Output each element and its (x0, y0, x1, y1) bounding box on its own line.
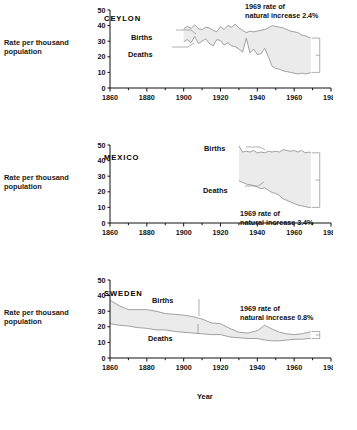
svg-text:1880: 1880 (139, 93, 155, 101)
series-label-deaths-sweden: Deaths (148, 334, 173, 343)
y-axis-label-line2: population (4, 182, 76, 191)
svg-text:1900: 1900 (176, 363, 192, 371)
y-axis-label-line2: population (4, 317, 76, 326)
annotation-mexico: 1969 rate of natural increase 3.4% (240, 209, 314, 227)
svg-text:1940: 1940 (249, 93, 265, 101)
series-label-births-sweden: Births (152, 296, 173, 305)
y-axis-label-line1: Rate per thousand (4, 308, 76, 317)
panel-title-mexico: MEXICO (104, 153, 139, 162)
svg-text:50: 50 (98, 276, 106, 285)
svg-text:20: 20 (98, 322, 106, 331)
svg-text:30: 30 (98, 307, 106, 316)
annotation-line1: 1969 rate of (240, 209, 314, 218)
series-label-births-ceylon: Births (131, 33, 152, 42)
svg-text:1920: 1920 (213, 93, 229, 101)
svg-text:10: 10 (98, 68, 106, 77)
y-axis-label-mexico: Rate per thousand population (4, 173, 76, 192)
svg-text:1860: 1860 (102, 228, 118, 236)
panel-title-sweden: SWEDEN (104, 289, 143, 298)
y-axis-label-ceylon: Rate per thousand population (4, 38, 76, 57)
series-label-deaths-ceylon: Deaths (128, 50, 153, 59)
svg-text:1980: 1980 (323, 93, 333, 101)
panel-sweden: Rate per thousand population 01020304050… (0, 270, 357, 430)
y-axis-label-sweden: Rate per thousand population (4, 308, 76, 327)
annotation-line1: 1969 rate of (245, 2, 319, 11)
annotation-ceylon: 1969 rate of natural increase 2.4% (245, 2, 319, 20)
svg-text:1920: 1920 (213, 228, 229, 236)
y-axis-label-line2: population (4, 47, 76, 56)
series-label-deaths-mexico: Deaths (203, 186, 228, 195)
annotation-line2: natural increase 0.8% (240, 313, 314, 322)
y-axis-label-line1: Rate per thousand (4, 173, 76, 182)
svg-text:20: 20 (98, 187, 106, 196)
svg-text:0: 0 (102, 84, 106, 93)
annotation-line2: natural increase 3.4% (240, 218, 314, 227)
birth-death-rate-figure: Rate per thousand population 01020304050… (0, 0, 357, 430)
svg-text:1860: 1860 (102, 363, 118, 371)
svg-text:1900: 1900 (176, 228, 192, 236)
svg-text:0: 0 (102, 354, 106, 363)
annotation-line2: natural increase 2.4% (245, 11, 319, 20)
x-axis-label: Year (197, 392, 213, 401)
svg-text:1980: 1980 (323, 228, 333, 236)
svg-text:10: 10 (98, 338, 106, 347)
svg-text:1960: 1960 (286, 228, 302, 236)
svg-text:1940: 1940 (249, 228, 265, 236)
svg-text:1960: 1960 (286, 93, 302, 101)
svg-text:1940: 1940 (249, 363, 265, 371)
svg-text:20: 20 (98, 52, 106, 61)
svg-text:10: 10 (98, 203, 106, 212)
series-label-births-mexico: Births (204, 144, 225, 153)
svg-text:1960: 1960 (286, 363, 302, 371)
annotation-line1: 1969 rate of (240, 304, 314, 313)
svg-text:1920: 1920 (213, 363, 229, 371)
svg-text:1980: 1980 (323, 363, 333, 371)
svg-text:1900: 1900 (176, 93, 192, 101)
panel-title-ceylon: CEYLON (104, 14, 141, 23)
svg-text:1880: 1880 (139, 228, 155, 236)
svg-text:1880: 1880 (139, 363, 155, 371)
y-axis-label-line1: Rate per thousand (4, 38, 76, 47)
panel-mexico: Rate per thousand population 01020304050… (0, 135, 357, 270)
annotation-sweden: 1969 rate of natural increase 0.8% (240, 304, 314, 322)
svg-text:1860: 1860 (102, 93, 118, 101)
panel-ceylon: Rate per thousand population 01020304050… (0, 0, 357, 135)
svg-text:30: 30 (98, 172, 106, 181)
svg-text:50: 50 (98, 141, 106, 150)
svg-text:0: 0 (102, 219, 106, 228)
svg-text:30: 30 (98, 37, 106, 46)
